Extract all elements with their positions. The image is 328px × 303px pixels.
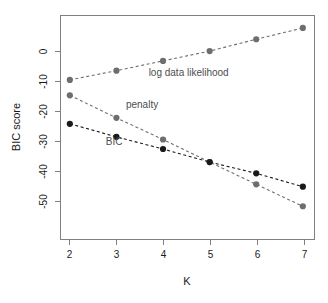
annotation-log-data-likelihood: log data likelihood (149, 67, 229, 78)
annotation-penalty: penalty (126, 99, 158, 110)
data-series-layer (67, 25, 306, 210)
x-tick-label-4: 4 (161, 249, 167, 260)
annotation-bic: BIC (106, 136, 123, 147)
data-point (160, 136, 166, 142)
data-point (300, 184, 306, 190)
series-annotations-layer: log data likelihoodpenaltyBIC (106, 67, 229, 147)
data-point (207, 159, 213, 165)
y-axis-tick-labels: 0 -10 -20 -30 -40 -50 (38, 48, 49, 208)
series-bic (67, 121, 306, 190)
y-tick-label-0: 0 (38, 48, 49, 54)
data-point (160, 146, 166, 152)
data-point (67, 77, 73, 83)
series-penalty (67, 92, 306, 209)
series-line (70, 95, 303, 206)
data-point (300, 25, 306, 31)
data-point (253, 36, 259, 42)
data-point (253, 170, 259, 176)
x-tick-label-7: 7 (302, 249, 308, 260)
y-tick-label-minus20: -20 (38, 104, 49, 119)
bic-score-chart: 0 -10 -20 -30 -40 -50 2 3 4 5 6 7 BIC sc… (0, 0, 328, 303)
series-line (70, 124, 303, 187)
y-tick-label-minus50: -50 (38, 194, 49, 209)
data-point (300, 203, 306, 209)
data-point (113, 68, 119, 74)
x-tick-label-2: 2 (67, 249, 73, 260)
x-tick-label-5: 5 (208, 249, 214, 260)
data-point (67, 121, 73, 127)
y-tick-label-minus40: -40 (38, 164, 49, 179)
data-point (67, 92, 73, 98)
y-axis-title: BIC score (10, 103, 22, 151)
plot-frame (61, 16, 315, 240)
data-point (253, 181, 259, 187)
x-tick-label-6: 6 (255, 249, 261, 260)
data-point (160, 58, 166, 64)
data-point (113, 115, 119, 121)
y-tick-label-minus30: -30 (38, 134, 49, 149)
x-axis-title: K (183, 275, 191, 287)
y-tick-label-minus10: -10 (38, 74, 49, 89)
x-axis-tick-labels: 2 3 4 5 6 7 (67, 249, 308, 260)
data-point (207, 48, 213, 54)
x-tick-label-3: 3 (114, 249, 120, 260)
x-axis-ticks (70, 240, 305, 245)
y-axis-ticks (55, 52, 60, 202)
